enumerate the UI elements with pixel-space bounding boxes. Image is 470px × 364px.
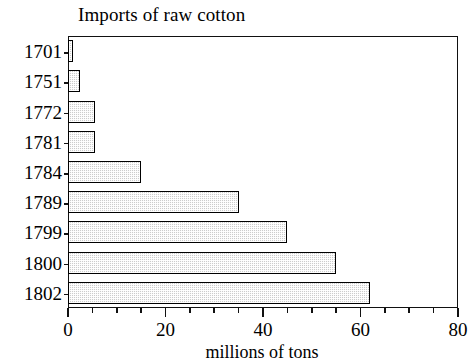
x-axis-minor-tick [116,308,118,313]
bar-row [68,248,458,278]
bar-row [68,278,458,308]
x-axis-tick-label: 60 [351,320,370,340]
x-axis-tick-label: 40 [254,320,273,340]
y-axis-tick-label: 1784 [0,163,62,182]
x-axis-tick-labels: 020406080 [0,320,470,344]
bar-row [68,36,458,66]
bar [68,161,141,183]
x-axis-minor-tick [335,308,337,313]
x-axis-minor-tick [238,308,240,313]
x-axis-minor-tick [140,308,142,313]
bar-row [68,66,458,96]
y-axis-tick-labels: 170117511772178117841789179918001802 [0,36,62,308]
x-axis-title: millions of tons [0,342,470,362]
bar-row [68,157,458,187]
bar [68,252,336,274]
x-axis-minor-tick [311,308,313,313]
x-axis-minor-tick [433,308,435,313]
bar [68,40,73,62]
x-axis-major-tick [67,308,69,317]
bar-row [68,127,458,157]
bar [68,221,287,243]
y-axis-tick-label: 1799 [0,223,62,242]
x-axis-tick-label: 0 [63,320,73,340]
x-axis-major-tick [165,308,167,317]
x-axis-major-tick [457,308,459,317]
y-axis-tick-label: 1802 [0,284,62,303]
bar-row [68,187,458,217]
y-axis-tick-label: 1781 [0,133,62,152]
x-axis-tick-label: 20 [156,320,175,340]
y-axis-tick-label: 1800 [0,254,62,273]
chart-figure: Imports of raw cotton 170117511772178117… [0,0,470,364]
x-axis-minor-tick [384,308,386,313]
y-axis-tick-label: 1772 [0,103,62,122]
x-axis-minor-tick [92,308,94,313]
x-axis-minor-tick [213,308,215,313]
x-axis-major-tick [360,308,362,317]
bar [68,191,239,213]
x-axis-minor-tick [287,308,289,313]
bars-layer [68,36,458,308]
y-axis-tick-label: 1701 [0,42,62,61]
x-axis-minor-tick [408,308,410,313]
bar [68,101,95,123]
x-axis-minor-tick [189,308,191,313]
bar [68,131,95,153]
bar-row [68,96,458,126]
x-axis-major-tick [262,308,264,317]
bar [68,282,370,304]
bar [68,70,80,92]
y-axis-tick-label: 1751 [0,72,62,91]
bar-row [68,217,458,247]
y-axis-tick-label: 1789 [0,193,62,212]
chart-title: Imports of raw cotton [78,4,245,26]
x-axis-tick-label: 80 [449,320,468,340]
